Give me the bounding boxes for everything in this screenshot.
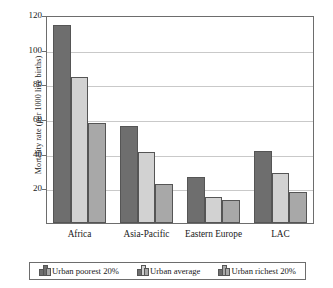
bar [289,192,307,223]
plot-area [46,16,314,224]
bar [120,126,138,223]
bar-group-lac [254,17,307,223]
bar [71,77,89,223]
legend-label: Urban poorest 20% [52,266,119,276]
bar-group-eastern-europe [187,17,240,223]
legend-label: Urban richest 20% [231,266,295,276]
x-tick-label-lac: LAC [247,229,314,240]
y-tick-label-100: 100 [2,46,42,55]
bar [254,151,272,223]
legend-glyph-bar [144,268,149,276]
y-tick-label-40: 40 [2,150,42,159]
y-tick-label-60: 60 [2,115,42,124]
bar [138,152,156,223]
bar [88,123,106,223]
bar-chart-icon [39,267,49,276]
bar-chart-icon [137,267,147,276]
bar [205,197,223,223]
bar-chart-figure: Mortality rate (per 1000 live births) 20… [0,0,333,288]
legend-glyph-bar [46,268,51,276]
x-tick-label-asia-pacific: Asia-Pacific [113,229,180,240]
bar [272,173,290,223]
legend-entry-0[interactable]: Urban poorest 20% [39,266,119,276]
bar [187,177,205,223]
bar [53,25,71,223]
chart-legend: Urban poorest 20%Urban averageUrban rich… [29,262,306,280]
x-tick-label-africa: Africa [46,229,113,240]
legend-entry-1[interactable]: Urban average [137,266,200,276]
y-tick-label-20: 20 [2,184,42,193]
bar [155,184,173,223]
legend-entry-2[interactable]: Urban richest 20% [218,266,295,276]
bar [222,200,240,223]
bar-group-asia-pacific [120,17,173,223]
y-tick-label-80: 80 [2,80,42,89]
x-tick-label-eastern-europe: Eastern Europe [180,229,247,240]
legend-glyph-bar [225,268,230,276]
legend-label: Urban average [150,266,200,276]
y-tick-label-120: 120 [2,11,42,20]
bar-group-africa [53,17,106,223]
bar-chart-icon [218,267,228,276]
